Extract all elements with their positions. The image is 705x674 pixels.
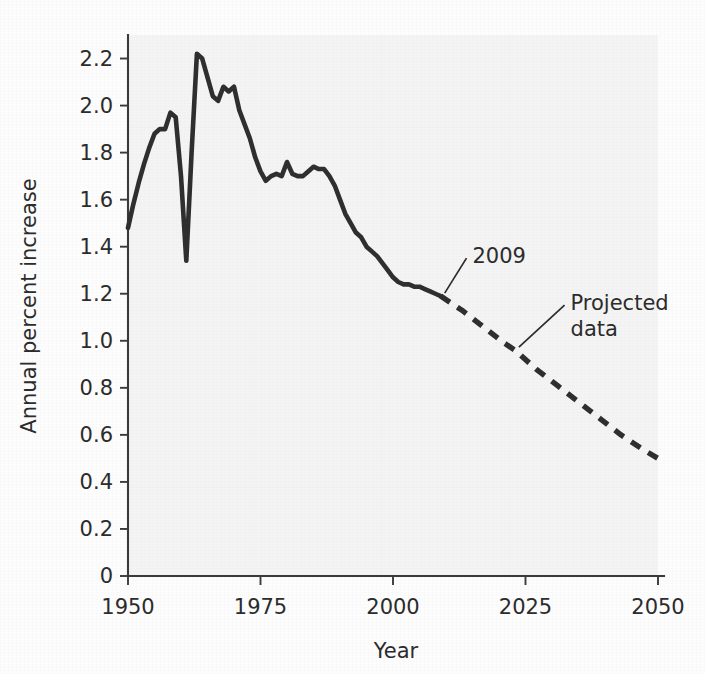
y-tick-label: 1.8 [80,141,113,165]
y-tick-label: 1.6 [80,188,113,212]
x-axis-title: Year [373,639,419,663]
x-tick-label: 1975 [234,595,287,619]
annotation-label: 2009 [473,244,526,268]
line-chart: 00.20.40.60.81.01.21.41.61.82.02.2 19501… [0,0,705,674]
annotation-line: data [571,317,618,341]
y-tick-label: 0.8 [80,376,113,400]
x-axis-ticks: 19501975200020252050 [101,576,684,619]
x-tick-label: 1950 [101,595,154,619]
y-axis-title: Annual percent increase [17,178,41,433]
y-tick-label: 0.4 [80,470,113,494]
annotation-line: 2009 [473,244,526,268]
y-tick-label: 2.2 [80,47,113,71]
y-tick-label: 1.0 [80,329,113,353]
y-tick-label: 1.2 [80,282,113,306]
y-tick-label: 0.2 [80,517,113,541]
x-tick-label: 2025 [499,595,552,619]
y-tick-label: 1.4 [80,235,113,259]
y-tick-label: 0 [100,564,113,588]
annotation-line: Projected [571,291,669,315]
x-tick-label: 2000 [366,595,419,619]
y-axis-ticks: 00.20.40.60.81.01.21.41.61.82.02.2 [80,47,128,588]
figure-container: 00.20.40.60.81.01.21.41.61.82.02.2 19501… [0,0,705,674]
y-tick-label: 2.0 [80,94,113,118]
y-tick-label: 0.6 [80,423,113,447]
x-tick-label: 2050 [631,595,684,619]
